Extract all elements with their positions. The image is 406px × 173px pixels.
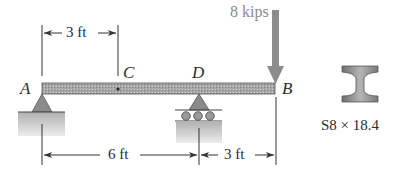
point-label-d: D	[192, 64, 204, 81]
beam	[42, 83, 275, 94]
load-label: 8 kips	[230, 4, 269, 20]
section-label: S8 × 18.4	[321, 118, 379, 133]
point-label-b: B	[282, 80, 292, 97]
dimension-label-ad: 6 ft	[106, 147, 130, 162]
dimension-label-db: 3 ft	[222, 147, 246, 162]
beam-diagram	[0, 0, 406, 173]
load-arrow	[267, 10, 284, 84]
point-label-c: C	[123, 64, 134, 81]
point-label-a: A	[20, 80, 30, 97]
i-beam-section-icon	[342, 66, 378, 102]
dimension-label-ac: 3 ft	[64, 25, 88, 40]
point-c-marker	[116, 87, 119, 90]
